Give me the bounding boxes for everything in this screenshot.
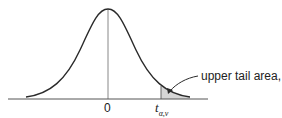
tail-area-annotation: upper tail area, α [201,69,282,83]
critical-value-subscript: α,ν [159,109,169,118]
t-distribution-diagram [0,0,282,118]
critical-value-label: tα,ν [155,100,168,118]
annotation-arrow [170,76,198,91]
zero-label: 0 [104,101,111,115]
